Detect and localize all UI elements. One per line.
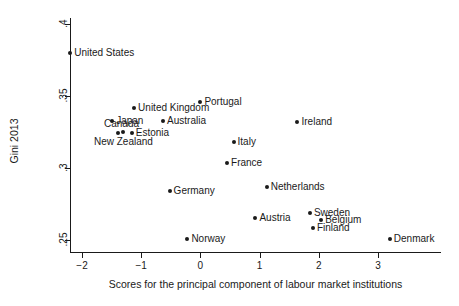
x-tick-label: 0 bbox=[198, 260, 204, 271]
x-tick-label: 3 bbox=[375, 260, 381, 271]
data-point-label: France bbox=[231, 158, 262, 168]
y-tick-label: .25 bbox=[58, 229, 69, 251]
data-point bbox=[161, 119, 165, 123]
data-point-label: Netherlands bbox=[271, 182, 325, 192]
x-tick-mark bbox=[260, 253, 261, 258]
data-point-label: Australia bbox=[167, 116, 206, 126]
data-point bbox=[121, 130, 125, 134]
data-point bbox=[185, 237, 189, 241]
data-point bbox=[168, 189, 172, 193]
data-point bbox=[265, 185, 269, 189]
data-point-label: Canada bbox=[104, 119, 139, 129]
y-tick-label: .3 bbox=[58, 157, 69, 179]
data-point-label: Portugal bbox=[204, 97, 241, 107]
data-point-label: Austria bbox=[259, 213, 290, 223]
x-tick-mark bbox=[319, 253, 320, 258]
data-point-label: Finland bbox=[317, 223, 350, 233]
data-point-label: Denmark bbox=[394, 234, 435, 244]
x-tick-mark bbox=[378, 253, 379, 258]
x-tick-mark bbox=[141, 253, 142, 258]
x-tick-mark bbox=[82, 253, 83, 258]
data-point bbox=[232, 140, 236, 144]
data-point bbox=[308, 211, 312, 215]
x-tick-mark bbox=[200, 253, 201, 258]
data-point bbox=[116, 131, 120, 135]
data-point bbox=[198, 100, 202, 104]
data-point-label: New Zealand bbox=[94, 137, 153, 147]
x-axis-line bbox=[70, 252, 441, 253]
x-tick-label: −1 bbox=[135, 260, 146, 271]
x-tick-label: 2 bbox=[316, 260, 322, 271]
data-point-label: Norway bbox=[191, 234, 225, 244]
data-point-label: Ireland bbox=[301, 117, 332, 127]
data-point-label: Italy bbox=[238, 137, 256, 147]
x-tick-label: −2 bbox=[76, 260, 87, 271]
y-tick-label: .35 bbox=[58, 85, 69, 107]
y-tick-label: .4 bbox=[58, 13, 69, 35]
scatter-plot-figure: .25.3.35.4 −2−10123 United StatesJapanUn… bbox=[0, 0, 459, 306]
data-point bbox=[132, 106, 136, 110]
data-point-label: Estonia bbox=[136, 128, 169, 138]
y-axis-title: Gini 2013 bbox=[8, 119, 20, 164]
data-point-label: United States bbox=[74, 48, 134, 58]
data-point bbox=[388, 237, 392, 241]
data-point bbox=[295, 120, 299, 124]
data-point bbox=[68, 51, 72, 55]
data-point bbox=[130, 131, 134, 135]
data-point bbox=[253, 216, 257, 220]
x-axis-title: Scores for the principal component of la… bbox=[70, 278, 441, 290]
data-point-label: Germany bbox=[174, 186, 215, 196]
data-point bbox=[225, 161, 229, 165]
x-tick-label: 1 bbox=[257, 260, 263, 271]
data-point bbox=[311, 226, 315, 230]
